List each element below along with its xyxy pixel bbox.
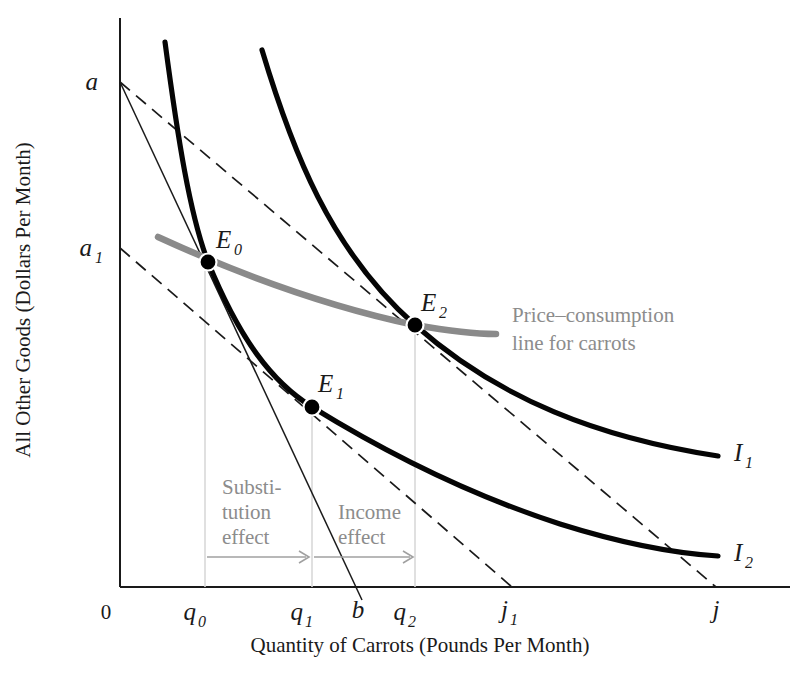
x-tick-label-b: b	[352, 596, 365, 623]
x-tick-label-q0: q	[184, 598, 197, 625]
figure-container: a a 1 0 q 0 q 1 b q 2 j 1 j	[0, 0, 804, 682]
x-tick-label-origin: 0	[101, 600, 112, 624]
x-tick-label-q2-subscript: 2	[408, 613, 416, 630]
x-tick-label-j1: j	[498, 596, 508, 623]
x-axis-title: Quantity of Carrots (Pounds Per Month)	[251, 633, 590, 657]
economics-diagram: a a 1 0 q 0 q 1 b q 2 j 1 j	[0, 0, 804, 682]
equilibrium-label-E2: E	[420, 289, 436, 316]
income-effect-label-line2: effect	[338, 525, 386, 549]
equilibrium-label-E1: E	[317, 370, 333, 397]
axes-group	[120, 18, 790, 587]
x-tick-label-j1-subscript: 1	[510, 611, 518, 628]
price-consumption-label-line1: Price–consumption	[512, 303, 675, 327]
equilibrium-point-E1[interactable]	[304, 399, 321, 416]
y-axis-title: All Other Goods (Dollars Per Month)	[11, 142, 35, 458]
y-intercept-label-a: a	[86, 68, 99, 95]
x-tick-label-q0-subscript: 0	[198, 613, 206, 630]
equilibrium-label-E0: E	[215, 226, 231, 253]
substitution-effect-label-line3: effect	[222, 525, 270, 549]
equilibrium-point-E0[interactable]	[200, 254, 217, 271]
effect-arrows-group	[207, 551, 413, 563]
equilibrium-labels-group: E 0 E 1 E 2	[215, 226, 447, 402]
curve-label-I2: I	[733, 539, 744, 566]
substitution-effect-label-line2: tution	[222, 500, 272, 524]
x-tick-label-q1-subscript: 1	[305, 613, 313, 630]
substitution-effect-label-line1: Substi-	[222, 475, 282, 499]
equilibrium-label-E1-subscript: 1	[336, 385, 344, 402]
x-tick-label-q2: q	[394, 598, 407, 625]
curve-labels-group: I 1 I 2	[733, 439, 753, 571]
y-intercept-label-a1: a	[80, 234, 93, 261]
income-effect-label-line1: Income	[338, 500, 401, 524]
y-intercept-label-a1-subscript: 1	[95, 249, 103, 266]
equilibrium-label-E0-subscript: 0	[234, 241, 242, 258]
curve-label-I1: I	[733, 439, 744, 466]
equilibrium-point-E2[interactable]	[407, 317, 424, 334]
x-tick-label-j: j	[710, 596, 720, 623]
equilibrium-points-group	[200, 254, 424, 416]
y-intercept-labels-group: a a 1	[80, 68, 104, 266]
x-tick-labels-group: 0 q 0 q 1 b q 2 j 1 j	[101, 596, 720, 630]
x-tick-label-q1: q	[291, 598, 304, 625]
curve-label-I1-subscript: 1	[745, 454, 753, 471]
equilibrium-label-E2-subscript: 2	[439, 304, 447, 321]
price-consumption-annotation-group: Price–consumption line for carrots	[512, 303, 675, 355]
curve-label-I2-subscript: 2	[745, 554, 753, 571]
price-consumption-label-line2: line for carrots	[512, 331, 636, 355]
